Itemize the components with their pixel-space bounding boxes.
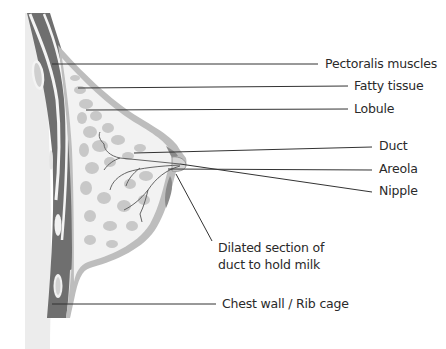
label-lobule: Lobule	[354, 101, 394, 117]
label-chest-wall: Chest wall / Rib cage	[222, 296, 349, 312]
leader-dilated	[176, 174, 212, 241]
label-duct: Duct	[379, 138, 408, 154]
label-nipple: Nipple	[379, 183, 418, 199]
leader-nipple	[180, 164, 372, 192]
label-dilated-duct-line2: duct to hold milk	[218, 257, 320, 273]
label-pectoralis-muscles: Pectoralis muscles	[325, 56, 437, 72]
rib-oval-3	[55, 214, 62, 236]
label-areola: Areola	[379, 161, 418, 177]
label-fatty-tissue: Fatty tissue	[354, 78, 424, 94]
rib-oval-2	[49, 150, 53, 170]
leader-areola	[168, 169, 372, 170]
label-dilated-duct-line1: Dilated section of	[218, 240, 324, 256]
rib-oval-4-inner	[56, 277, 61, 295]
leader-fatty	[78, 86, 348, 88]
